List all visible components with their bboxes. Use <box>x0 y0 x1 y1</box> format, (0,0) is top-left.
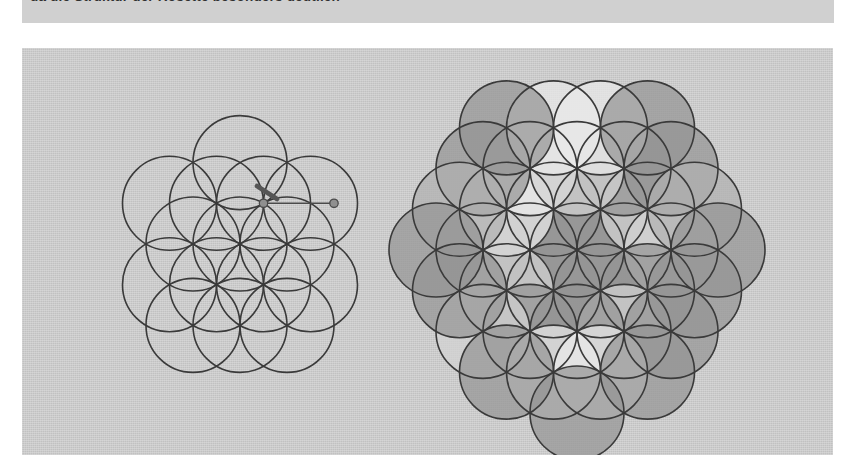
shaded-discs <box>389 81 765 455</box>
compass-pencil-point <box>330 199 338 207</box>
right-rosette-figure <box>362 50 792 450</box>
figure-panel <box>22 48 833 455</box>
compass-tool <box>257 186 338 208</box>
left-rosette-figure <box>95 98 385 408</box>
page-bottom-margin <box>0 455 854 468</box>
compass-pivot-point <box>259 199 267 207</box>
seed-outlines <box>123 116 358 373</box>
left-rosette-svg <box>95 98 385 408</box>
caption-strip: da die Struktur der Rosette besonders de… <box>22 0 834 23</box>
right-rosette-svg <box>362 50 792 450</box>
compass-pencil-shaft <box>257 186 277 199</box>
caption-text: da die Struktur der Rosette besonders de… <box>30 0 340 4</box>
